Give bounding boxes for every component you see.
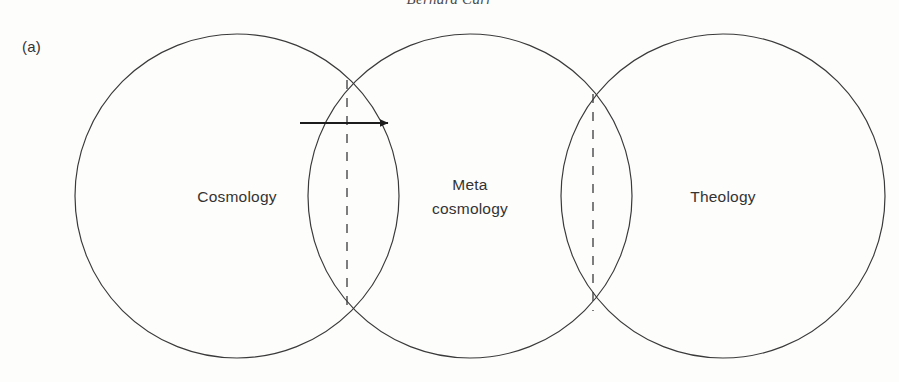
label-theology: Theology <box>690 188 755 205</box>
label-cosmology: Cosmology <box>197 188 276 205</box>
label-meta-cosmology-line2: cosmology <box>432 200 508 217</box>
figure-page: Bernard Carr (a) Cosmology Meta cosmolog… <box>0 0 899 382</box>
label-meta-cosmology-line1: Meta <box>452 176 487 193</box>
circle-meta-cosmology <box>308 34 632 358</box>
venn-diagram: Cosmology Meta cosmology Theology <box>0 0 899 382</box>
